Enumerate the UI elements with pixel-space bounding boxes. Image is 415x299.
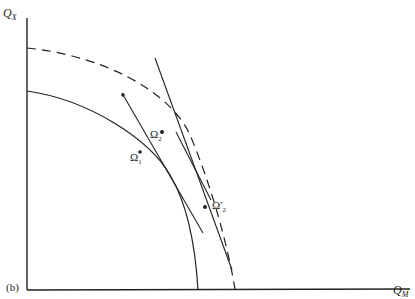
outer-frontier-curve bbox=[27, 48, 235, 289]
tangent-line-omega2 bbox=[155, 58, 232, 270]
label-omega1-sub: 1 bbox=[138, 158, 142, 166]
label-omega2-sub: 2 bbox=[158, 135, 162, 143]
label-omega1-base: Ω bbox=[130, 151, 138, 163]
x-axis-label-base: Q bbox=[393, 283, 402, 297]
x-axis bbox=[27, 289, 410, 290]
diagram-canvas bbox=[0, 0, 415, 299]
panel-label: (b) bbox=[6, 281, 19, 293]
x-axis-label-sub: M bbox=[402, 290, 409, 299]
y-axis-label-base: Q bbox=[3, 6, 12, 20]
production-frontier-diagram: QX QM (b) Ω2 Ω1 Ω′2 bbox=[0, 0, 415, 299]
label-omega2: Ω2 bbox=[150, 128, 162, 143]
point-dashed-upper bbox=[121, 93, 125, 97]
y-axis-label-sub: X bbox=[12, 13, 17, 22]
label-omega2-prime-base: Ω bbox=[212, 199, 220, 211]
label-omega1: Ω1 bbox=[130, 151, 142, 166]
label-omega2-prime-sub: 2 bbox=[223, 206, 227, 214]
label-omega2-base: Ω bbox=[150, 128, 158, 140]
label-omega2-prime: Ω′2 bbox=[212, 199, 226, 214]
inner-frontier-curve bbox=[27, 91, 198, 290]
point-omega2-prime bbox=[203, 205, 207, 209]
x-axis-label: QM bbox=[393, 283, 408, 299]
y-axis-label: QX bbox=[3, 6, 17, 22]
